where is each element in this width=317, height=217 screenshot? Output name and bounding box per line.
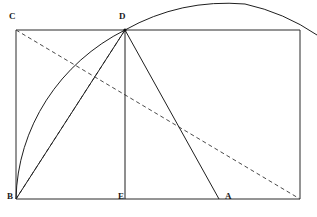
point-label-c: C: [9, 12, 16, 21]
segment-d-to-b: [16, 30, 125, 199]
segment-d-to-a: [125, 30, 219, 199]
point-label-b: B: [7, 192, 13, 201]
geometry-diagram: C D B E A: [0, 0, 317, 217]
dashed-diagonal-c-to-corner: [16, 30, 300, 199]
point-label-a: A: [225, 192, 232, 201]
circular-arc-centered-at-a: [16, 3, 317, 199]
point-label-d: D: [119, 12, 126, 21]
point-label-e: E: [118, 192, 124, 201]
geometry-canvas: [0, 0, 317, 217]
vertex-dot-d: [123, 28, 126, 31]
